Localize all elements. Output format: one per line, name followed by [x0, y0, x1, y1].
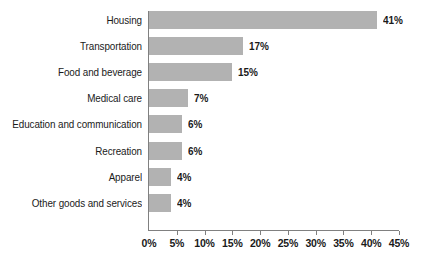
- x-tick-mark: [177, 231, 178, 235]
- x-tick-mark: [232, 231, 233, 235]
- x-tick-mark: [288, 231, 289, 235]
- category-label: Other goods and services: [9, 194, 142, 212]
- x-tick-mark: [343, 231, 344, 235]
- bar-value-label: 41%: [383, 11, 403, 29]
- bar-row: Medical care7%: [0, 89, 444, 107]
- bar-row: Education and communication6%: [0, 115, 444, 133]
- bar-row: Housing41%: [0, 11, 444, 29]
- bar: [149, 115, 182, 133]
- bar-value-label: 7%: [194, 89, 208, 107]
- bar-value-label: 15%: [238, 63, 258, 81]
- x-tick-mark: [260, 231, 261, 235]
- x-axis-line: [148, 230, 399, 231]
- bar-row: Food and beverage15%: [0, 63, 444, 81]
- bar: [149, 194, 171, 212]
- bar-value-label: 4%: [177, 168, 191, 186]
- bar: [149, 63, 232, 81]
- bar: [149, 142, 182, 160]
- category-label: Education and communication: [9, 115, 142, 133]
- bar: [149, 89, 188, 107]
- bar: [149, 37, 243, 55]
- category-label: Food and beverage: [9, 63, 142, 81]
- bar-row: Apparel4%: [0, 168, 444, 186]
- bar-value-label: 6%: [188, 115, 202, 133]
- category-label: Transportation: [9, 37, 142, 55]
- category-label: Medical care: [9, 89, 142, 107]
- category-label: Housing: [9, 11, 142, 29]
- bar-row: Other goods and services4%: [0, 194, 444, 212]
- category-label: Apparel: [9, 168, 142, 186]
- bar-chart: Housing41%Transportation17%Food and beve…: [0, 0, 444, 255]
- bar-row: Recreation6%: [0, 142, 444, 160]
- x-tick-mark: [399, 231, 400, 235]
- bar-value-label: 6%: [188, 142, 202, 160]
- bar: [149, 11, 377, 29]
- x-tick-mark: [371, 231, 372, 235]
- category-label: Recreation: [9, 142, 142, 160]
- bar: [149, 168, 171, 186]
- bar-value-label: 4%: [177, 194, 191, 212]
- bar-row: Transportation17%: [0, 37, 444, 55]
- x-tick-mark: [205, 231, 206, 235]
- x-tick-mark: [316, 231, 317, 235]
- x-tick-label: 45%: [379, 237, 419, 249]
- bar-value-label: 17%: [249, 37, 269, 55]
